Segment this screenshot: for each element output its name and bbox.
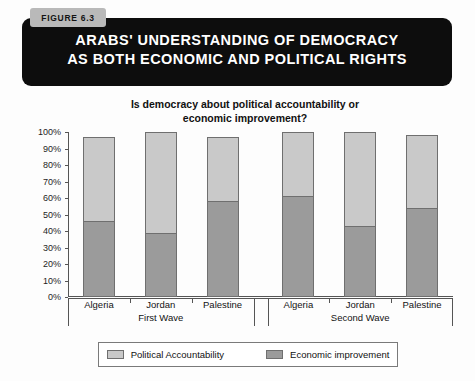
- figure-title-line-2: AS BOTH ECONOMIC AND POLITICAL RIGHTS: [22, 50, 452, 69]
- y-axis-tick-70: 70%: [43, 177, 68, 187]
- legend-swatch-economic-improvement: [266, 350, 283, 359]
- chart-legend: Political AccountabilityEconomic improve…: [98, 342, 398, 367]
- stacked-bar: [406, 135, 438, 297]
- figure-title: ARABS' UNDERSTANDING OF DEMOCRACY AS BOT…: [22, 31, 452, 69]
- banner-background: ARABS' UNDERSTANDING OF DEMOCRACY AS BOT…: [22, 18, 452, 86]
- stacked-bar: [344, 132, 376, 297]
- bar-segment-economic-improvement: [344, 226, 376, 297]
- x-axis-group-boundary: [268, 298, 269, 326]
- x-axis-group-boundary: [68, 298, 69, 326]
- y-axis-tick-10: 10%: [43, 276, 68, 286]
- chart-subtitle-line-1: Is democracy about political accountabil…: [131, 98, 359, 110]
- bar-segment-economic-improvement: [207, 201, 239, 297]
- stacked-bar: [282, 132, 314, 297]
- y-axis-tick-50: 50%: [43, 210, 68, 220]
- stacked-bar: [145, 132, 177, 297]
- legend-label: Political Accountability: [131, 349, 224, 360]
- bar-segment-economic-improvement: [83, 221, 115, 297]
- bar-segment-political-accountability: [406, 135, 438, 208]
- x-axis-group-boundary: [452, 298, 453, 326]
- legend-swatch-political-accountability: [107, 350, 124, 359]
- bar-segment-political-accountability: [207, 137, 239, 201]
- chart-axes-frame: [68, 132, 453, 297]
- chart-plot-area: 0%10%20%30%40%50%60%70%80%90%100%: [68, 132, 453, 297]
- x-axis-group-label: Second Wave: [268, 312, 454, 323]
- y-axis-tick-100: 100%: [38, 127, 68, 137]
- chart-subtitle: Is democracy about political accountabil…: [60, 97, 430, 125]
- figure-number-tab: FIGURE 6.3: [30, 8, 106, 27]
- bar-segment-economic-improvement: [406, 208, 438, 297]
- legend-item: Economic improvement: [266, 349, 389, 360]
- x-axis-group-label: First Wave: [68, 312, 254, 323]
- y-axis-tick-60: 60%: [43, 193, 68, 203]
- y-axis-tick-40: 40%: [43, 226, 68, 236]
- x-axis-group-baseline: [68, 298, 453, 299]
- bar-segment-political-accountability: [344, 132, 376, 226]
- bar-segment-political-accountability: [282, 132, 314, 196]
- x-axis-category-label: Palestine: [386, 299, 458, 310]
- bar-segment-political-accountability: [83, 137, 115, 221]
- y-axis-tick-30: 30%: [43, 243, 68, 253]
- y-axis-tick-20: 20%: [43, 259, 68, 269]
- legend-item: Political Accountability: [107, 349, 224, 360]
- x-axis-group-boundary: [254, 298, 255, 326]
- y-axis-tick-90: 90%: [43, 144, 68, 154]
- figure-container: ARABS' UNDERSTANDING OF DEMOCRACY AS BOT…: [0, 0, 475, 381]
- figure-title-line-1: ARABS' UNDERSTANDING OF DEMOCRACY: [75, 32, 398, 48]
- y-axis-tick-80: 80%: [43, 160, 68, 170]
- stacked-bar: [83, 137, 115, 297]
- chart-subtitle-line-2: economic improvement?: [60, 111, 430, 125]
- x-axis-category-label: Palestine: [187, 299, 259, 310]
- bar-segment-political-accountability: [145, 132, 177, 233]
- legend-label: Economic improvement: [290, 349, 389, 360]
- bar-segment-economic-improvement: [145, 233, 177, 297]
- bar-segment-economic-improvement: [282, 196, 314, 297]
- stacked-bar: [207, 137, 239, 297]
- figure-banner: ARABS' UNDERSTANDING OF DEMOCRACY AS BOT…: [22, 18, 452, 86]
- x-axis-group-labels: First WaveSecond Wave: [68, 312, 453, 330]
